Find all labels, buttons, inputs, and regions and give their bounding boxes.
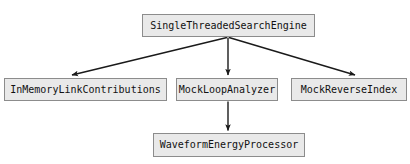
node-label: SingleThreadedSearchEngine: [150, 21, 307, 31]
edge-root-to-right: [229, 38, 355, 76]
node-label: InMemoryLinkContributions: [10, 85, 161, 95]
node-waveform-energy-processor[interactable]: WaveformEnergyProcessor: [153, 133, 305, 157]
node-label: MockReverseIndex: [301, 85, 397, 95]
node-mock-loop-analyzer[interactable]: MockLoopAnalyzer: [176, 78, 278, 101]
node-label: WaveformEnergyProcessor: [160, 140, 298, 150]
class-dependency-diagram: SingleThreadedSearchEngine InMemoryLinkC…: [0, 0, 410, 164]
node-single-threaded-search-engine[interactable]: SingleThreadedSearchEngine: [142, 14, 315, 37]
node-label: MockLoopAnalyzer: [179, 85, 275, 95]
edge-root-to-left: [72, 38, 227, 76]
node-mock-reverse-index[interactable]: MockReverseIndex: [291, 78, 407, 101]
node-in-memory-link-contributions[interactable]: InMemoryLinkContributions: [4, 78, 167, 101]
